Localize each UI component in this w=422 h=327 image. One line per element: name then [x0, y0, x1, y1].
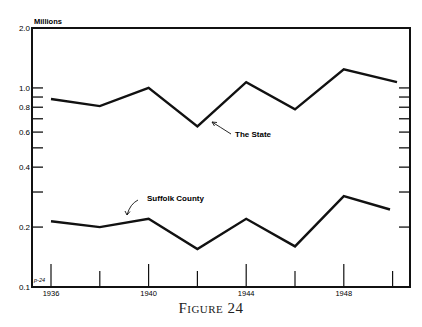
series-line-the-state: [51, 69, 397, 126]
data-lines: [51, 69, 397, 249]
y-axis-ticks: 2.01.00.80.60.40.20.1: [19, 24, 410, 292]
series-line-suffolk-county: [51, 196, 390, 249]
label-the-state: The State: [235, 130, 272, 139]
y-tick-label: 0.8: [19, 103, 31, 112]
y-tick-label: 2.0: [19, 24, 31, 33]
x-axis-ticks: 1936194019441948: [43, 264, 393, 298]
figure-caption: Figure 24: [0, 300, 422, 317]
plot-frame: [32, 28, 410, 287]
x-tick-label: 1940: [140, 289, 157, 298]
y-tick-label: 0.4: [19, 163, 31, 172]
x-tick-label: 1948: [335, 289, 352, 298]
label-suffolk-county: Suffolk County: [147, 194, 204, 203]
y-tick-label: 0.2: [19, 223, 31, 232]
y-axis-label: Millions: [34, 17, 62, 26]
corner-mark: p-24: [33, 277, 45, 283]
annotations: The StateSuffolk County: [125, 122, 272, 215]
y-tick-label: 0.6: [19, 128, 31, 137]
x-tick-label: 1944: [238, 289, 255, 298]
line-chart: 2.01.00.80.60.40.20.1 1936194019441948 T…: [0, 0, 422, 300]
y-tick-label: 0.1: [19, 283, 31, 292]
plot-border: [32, 28, 410, 287]
x-tick-label: 1936: [43, 289, 60, 298]
arrow-state: [212, 122, 231, 134]
y-tick-label: 1.0: [19, 84, 31, 93]
